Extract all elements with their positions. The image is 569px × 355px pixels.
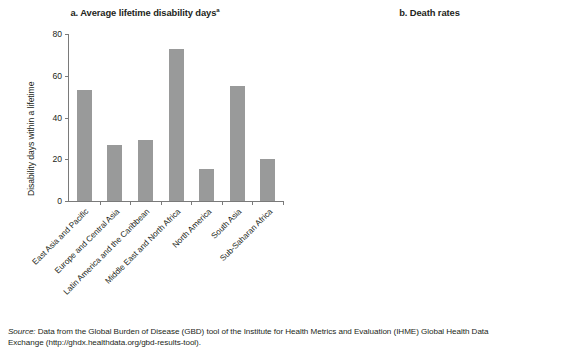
panel-a-title-text: a. Average lifetime disability days <box>70 7 216 18</box>
source-note-label: Source: <box>8 327 36 336</box>
panel-a-title-footnote-marker: a <box>216 7 219 13</box>
panel-a-y-axis-label: Disability days within a lifetime <box>26 82 36 196</box>
source-note-text: Data from the Global Burden of Disease (… <box>36 327 489 336</box>
panel-b-title: b. Death rates <box>290 7 569 18</box>
panel-a-bar-slot <box>252 34 283 201</box>
panel-a-ytick-label-40: 40 <box>52 113 62 123</box>
panel-a-plot-area: 0 20 40 60 80 <box>68 34 283 202</box>
panel-a-xlabel-text: East Asia and Pacific <box>31 207 91 267</box>
panel-a-ytick-label-0: 0 <box>57 196 62 206</box>
source-note-text-line2: Exchange (http://ghdx.healthdata.org/gbd… <box>8 337 564 348</box>
panel-a-x-axis-labels: East Asia and Pacific Europe and Central… <box>69 201 283 309</box>
panel-a-title: a. Average lifetime disability daysa <box>0 7 290 18</box>
figure-two-panel-bar-charts: a. Average lifetime disability daysa Dis… <box>0 0 569 355</box>
panel-a-ytick-label-60: 60 <box>52 71 62 81</box>
panel-b: b. Death rates Deaths per 100,000 people… <box>290 0 569 310</box>
source-note: Source: Data from the Global Burden of D… <box>8 326 564 349</box>
panel-a-ytick-label-80: 80 <box>52 29 62 39</box>
panel-a-bar-slot <box>69 34 100 201</box>
panel-a: a. Average lifetime disability daysa Dis… <box>0 0 290 310</box>
panel-a-bar-east-asia-and-pacific <box>77 90 92 201</box>
panel-a-ytick-label-20: 20 <box>52 154 62 164</box>
panel-b-title-text: b. Death rates <box>399 7 460 18</box>
panel-a-xlabel-text: Sub-Saharan Africa <box>218 207 274 263</box>
